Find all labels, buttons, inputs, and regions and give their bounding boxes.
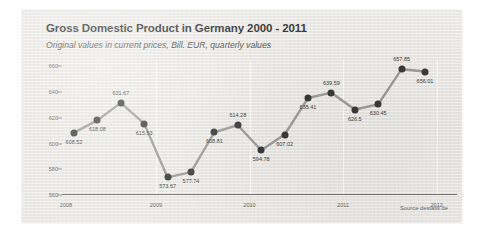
chart-card: Gross Domestic Product in Germany 2000 -…	[22, 10, 462, 223]
data-point-label: 608.52	[66, 139, 83, 145]
data-point[interactable]	[398, 66, 405, 73]
x-tick-label: 2010	[243, 202, 255, 208]
data-point-label: 594.78	[253, 156, 270, 162]
data-point[interactable]	[351, 106, 358, 113]
chart-title: Gross Domestic Product in Germany 2000 -…	[46, 22, 307, 34]
data-point[interactable]	[328, 89, 335, 96]
data-point[interactable]	[305, 95, 312, 102]
data-point-label: 608.81	[206, 138, 223, 144]
data-point[interactable]	[234, 122, 241, 129]
data-point[interactable]	[164, 174, 171, 181]
data-point[interactable]	[258, 147, 265, 154]
y-tick-label: 580	[28, 166, 58, 172]
y-tick-label: 560	[28, 192, 58, 198]
data-point-label: 631.67	[112, 90, 129, 96]
y-tick-label: 660	[28, 63, 58, 69]
data-point-label: 626.5	[348, 116, 362, 122]
data-point-label: 615.53	[136, 130, 153, 136]
x-tick-label: 2008	[60, 202, 72, 208]
y-tick-label: 620	[28, 115, 58, 121]
data-point-label: 618.08	[89, 126, 106, 132]
data-point-label: 607.02	[276, 141, 293, 147]
screenshot-root: Gross Domestic Product in Germany 2000 -…	[0, 0, 481, 250]
data-point[interactable]	[211, 129, 218, 136]
data-point[interactable]	[375, 101, 382, 108]
data-point-label: 639.59	[323, 80, 340, 86]
data-point[interactable]	[422, 68, 429, 75]
data-point-label: 635.41	[300, 104, 317, 110]
chart-subtitle: Original values in current prices, Bill.…	[46, 40, 271, 50]
data-point[interactable]	[94, 117, 101, 124]
data-point[interactable]	[141, 120, 148, 127]
data-point-label: 614.28	[229, 112, 246, 118]
source-note: Source destatis.de	[400, 205, 448, 211]
data-point[interactable]	[188, 169, 195, 176]
data-point-label: 630.45	[370, 110, 387, 116]
data-point[interactable]	[117, 99, 124, 106]
y-tick-label: 600	[28, 141, 58, 147]
data-point-label: 656.01	[417, 78, 434, 84]
data-point-label: 657.85	[393, 56, 410, 62]
data-point-label: 577.74	[183, 178, 200, 184]
x-tick-label: 2011	[337, 202, 349, 208]
y-tick-label: 640	[28, 89, 58, 95]
x-tick-label: 2009	[150, 202, 162, 208]
data-point[interactable]	[71, 129, 78, 136]
series-line	[62, 60, 447, 195]
plot-area: 660640620600580560 20082009201020112012 …	[62, 60, 447, 195]
data-point[interactable]	[281, 131, 288, 138]
data-point-label: 573.67	[159, 183, 176, 189]
